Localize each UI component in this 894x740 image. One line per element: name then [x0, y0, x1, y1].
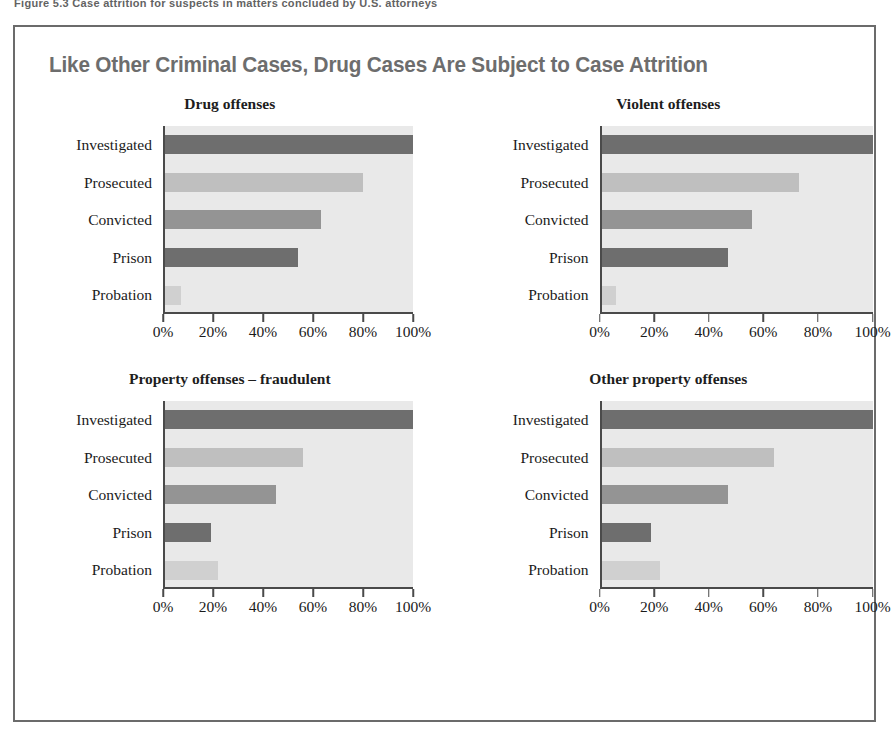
plot-area-wrapper: InvestigatedProsecutedConvictedPrisonPro… [163, 401, 413, 589]
x-axis-tick-labels: 0%20%40%60%80%100% [163, 598, 413, 620]
category-label-prosecuted: Prosecuted [84, 164, 152, 202]
x-tick [653, 314, 655, 322]
bar-probation [163, 286, 181, 305]
x-tick [872, 589, 874, 597]
bar-row: Investigated [600, 126, 873, 164]
y-axis-line [163, 401, 165, 589]
x-tick [412, 314, 414, 322]
category-label-probation: Probation [528, 276, 588, 314]
category-label-prison: Prison [549, 514, 589, 552]
x-tick [412, 589, 414, 597]
x-tick-label: 40% [249, 323, 277, 341]
category-label-convicted: Convicted [88, 476, 152, 514]
x-tick [162, 589, 164, 597]
y-axis-line [600, 401, 602, 589]
x-tick [262, 314, 264, 322]
category-label-investigated: Investigated [513, 401, 589, 439]
x-tick-label: 20% [199, 598, 227, 616]
x-tick [599, 314, 601, 322]
x-tick-label: 100% [395, 598, 431, 616]
category-label-probation: Probation [528, 551, 588, 589]
bar-prosecuted [600, 448, 775, 467]
x-tick [212, 589, 214, 597]
bar-convicted [163, 210, 321, 229]
x-tick-label: 100% [395, 323, 431, 341]
plot-area-wrapper: InvestigatedProsecutedConvictedPrisonPro… [600, 126, 873, 314]
x-axis-tick-labels: 0%20%40%60%80%100% [163, 323, 413, 345]
panel-title: Violent offenses [445, 95, 875, 113]
bar-row: Prosecuted [163, 439, 413, 477]
panel-title: Property offenses – fraudulent [15, 370, 445, 388]
x-axis-ticks [163, 589, 413, 597]
x-tick [817, 589, 819, 597]
category-label-convicted: Convicted [525, 476, 589, 514]
x-tick-label: 20% [199, 323, 227, 341]
bar-investigated [600, 410, 873, 429]
figure-title: Like Other Criminal Cases, Drug Cases Ar… [49, 53, 811, 78]
x-tick [817, 314, 819, 322]
x-tick-label: 60% [749, 323, 777, 341]
category-label-probation: Probation [92, 551, 152, 589]
x-tick [212, 314, 214, 322]
category-label-prison: Prison [549, 239, 589, 277]
bar-row: Probation [600, 276, 873, 314]
x-tick-label: 100% [854, 598, 890, 616]
cut-off-caption: Figure 5.3 Case attrition for suspects i… [14, 0, 614, 11]
x-tick [708, 589, 710, 597]
x-tick-label: 60% [299, 598, 327, 616]
x-tick-label: 60% [299, 323, 327, 341]
panel-grid: Drug offenses InvestigatedProsecutedConv… [15, 89, 874, 639]
bar-series: InvestigatedProsecutedConvictedPrisonPro… [163, 126, 413, 314]
x-tick-label: 0% [153, 598, 174, 616]
bar-series: InvestigatedProsecutedConvictedPrisonPro… [600, 126, 873, 314]
category-label-prison: Prison [112, 239, 152, 277]
y-axis-line [600, 126, 602, 314]
bar-row: Investigated [163, 401, 413, 439]
category-label-prosecuted: Prosecuted [520, 439, 588, 477]
x-tick-label: 40% [249, 598, 277, 616]
panel-other-property-offenses: Other property offenses InvestigatedPros… [445, 364, 875, 639]
x-tick [312, 589, 314, 597]
bar-probation [163, 561, 218, 580]
x-axis-tick-labels: 0%20%40%60%80%100% [600, 323, 873, 345]
x-tick [262, 589, 264, 597]
panel-title: Drug offenses [15, 95, 445, 113]
x-tick [872, 314, 874, 322]
x-tick-label: 0% [589, 598, 610, 616]
panel-property-offenses-fraudulent: Property offenses – fraudulent Investiga… [15, 364, 445, 639]
figure-frame: Like Other Criminal Cases, Drug Cases Ar… [13, 25, 876, 722]
x-tick [653, 589, 655, 597]
bar-probation [600, 561, 660, 580]
bar-probation [600, 286, 616, 305]
category-label-probation: Probation [92, 276, 152, 314]
bar-row: Prison [163, 514, 413, 552]
bar-row: Probation [600, 551, 873, 589]
category-label-investigated: Investigated [76, 401, 152, 439]
panel-drug-offenses: Drug offenses InvestigatedProsecutedConv… [15, 89, 445, 364]
bar-prison [163, 248, 298, 267]
x-tick [362, 589, 364, 597]
bar-prison [163, 523, 211, 542]
bar-prosecuted [163, 448, 303, 467]
x-tick-label: 100% [854, 323, 890, 341]
bar-prosecuted [163, 173, 363, 192]
bar-row: Prison [163, 239, 413, 277]
bar-row: Prosecuted [600, 439, 873, 477]
bar-convicted [163, 485, 276, 504]
bar-investigated [163, 410, 413, 429]
plot-area-wrapper: InvestigatedProsecutedConvictedPrisonPro… [600, 401, 873, 589]
bar-series: InvestigatedProsecutedConvictedPrisonPro… [163, 401, 413, 589]
bar-prison [600, 523, 652, 542]
x-tick-label: 40% [694, 323, 722, 341]
bar-row: Prosecuted [600, 164, 873, 202]
bar-row: Convicted [600, 201, 873, 239]
x-tick-label: 20% [640, 598, 668, 616]
x-tick [362, 314, 364, 322]
category-label-investigated: Investigated [76, 126, 152, 164]
x-tick-label: 80% [804, 598, 832, 616]
x-tick-label: 20% [640, 323, 668, 341]
bar-row: Investigated [163, 126, 413, 164]
bar-row: Prosecuted [163, 164, 413, 202]
category-label-investigated: Investigated [513, 126, 589, 164]
bar-row: Probation [163, 276, 413, 314]
